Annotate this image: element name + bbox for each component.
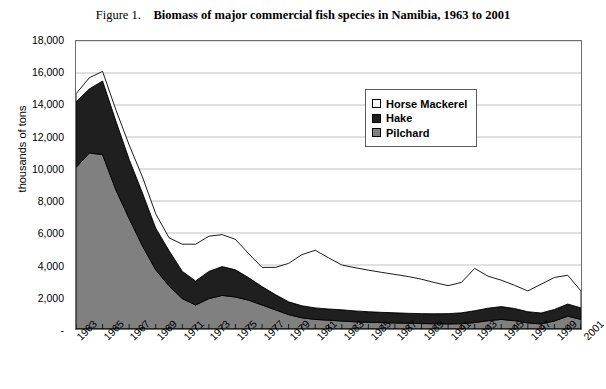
legend-item-label: Horse Mackerel: [386, 98, 467, 110]
y-tick-label: 8,000: [38, 195, 64, 207]
legend-item[interactable]: Hake: [372, 112, 467, 124]
x-axis-tick-labels: 1963196519671969197119731975197719791981…: [75, 330, 582, 388]
y-tick-label: 14,000: [32, 98, 64, 110]
figure-container: Figure 1. Biomass of major commercial fi…: [0, 0, 606, 389]
y-tick-label: 10,000: [32, 163, 64, 175]
x-tick-label: 2001: [581, 317, 606, 342]
chart-legend: Horse MackerelHakePilchard: [365, 89, 477, 147]
legend-swatch-icon: [372, 114, 381, 123]
figure-label: Figure 1.: [96, 8, 141, 22]
legend-swatch-icon: [372, 99, 381, 108]
y-tick-label: -: [61, 324, 65, 336]
legend-item-label: Pilchard: [386, 127, 429, 139]
legend-item[interactable]: Horse Mackerel: [372, 98, 467, 110]
chart-title: Figure 1. Biomass of major commercial fi…: [0, 8, 606, 23]
stacked-area-svg: [76, 41, 581, 329]
plot-area: [75, 40, 582, 330]
legend-item[interactable]: Pilchard: [372, 127, 467, 139]
y-tick-label: 2,000: [38, 292, 64, 304]
y-tick-label: 12,000: [32, 131, 64, 143]
y-axis-tick-labels: 18,00016,00014,00012,00010,0008,0006,000…: [0, 40, 70, 330]
y-tick-label: 4,000: [38, 260, 64, 272]
y-tick-label: 16,000: [32, 66, 64, 78]
legend-swatch-icon: [372, 128, 381, 137]
y-tick-label: 18,000: [32, 34, 64, 46]
figure-title-text: Biomass of major commercial fish species…: [153, 8, 510, 22]
legend-item-label: Hake: [386, 112, 412, 124]
y-tick-label: 6,000: [38, 227, 64, 239]
